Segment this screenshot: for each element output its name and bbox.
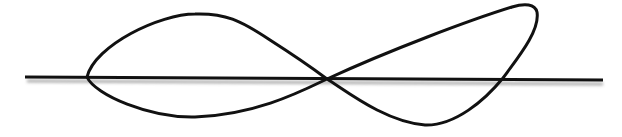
diagram-canvas [0, 0, 622, 137]
horizontal-baseline [25, 77, 603, 80]
figure-eight-curve [87, 5, 537, 125]
figure-eight-diagram [0, 0, 622, 137]
